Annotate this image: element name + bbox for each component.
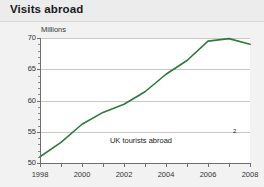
- y-axis-minor-tick-mark: [38, 126, 40, 127]
- chart-figure: Visits abroad Millions 5055606570 199820…: [0, 0, 264, 187]
- title-divider: [0, 21, 264, 22]
- y-axis-minor-tick-mark: [38, 57, 40, 58]
- x-axis-tick-mark: [40, 164, 41, 167]
- y-axis-minor-tick-mark: [38, 82, 40, 83]
- y-axis-tick-mark: [37, 101, 40, 102]
- y-axis-minor-tick-mark: [38, 151, 40, 152]
- series-annotation-label: UK tourists abroad: [110, 136, 172, 145]
- y-axis-tick-label: 70: [14, 33, 36, 42]
- x-axis-tick-mark: [103, 164, 104, 167]
- x-axis-tick-mark: [61, 164, 62, 167]
- y-axis-minor-tick-mark: [38, 94, 40, 95]
- x-axis-tick-label: 2000: [67, 170, 97, 179]
- y-axis-minor-tick-mark: [38, 63, 40, 64]
- y-axis-minor-tick-mark: [38, 51, 40, 52]
- x-axis-tick-mark: [250, 164, 251, 167]
- page-title: Visits abroad: [10, 3, 83, 15]
- series-annotation-footnote-marker: 2: [233, 128, 236, 134]
- x-axis-tick-label: 2006: [193, 170, 223, 179]
- y-axis-minor-tick-mark: [38, 44, 40, 45]
- y-axis-minor-tick-mark: [38, 107, 40, 108]
- x-axis-tick-mark: [187, 164, 188, 167]
- y-axis-tick-label: 60: [14, 96, 36, 105]
- x-axis-tick-label: 2004: [151, 170, 181, 179]
- y-axis-tick-label: 50: [14, 158, 36, 167]
- x-axis-tick-label: 2002: [109, 170, 139, 179]
- x-axis-tick-mark: [166, 164, 167, 167]
- x-axis-tick-label: 2008: [235, 170, 264, 179]
- x-axis-tick-label: 1998: [25, 170, 55, 179]
- y-axis-minor-tick-mark: [38, 157, 40, 158]
- y-axis-minor-tick-mark: [38, 76, 40, 77]
- y-axis-tick-mark: [37, 69, 40, 70]
- y-axis-tick-label: 55: [14, 127, 36, 136]
- y-axis-tick-mark: [37, 132, 40, 133]
- y-axis-minor-tick-mark: [38, 144, 40, 145]
- y-axis-minor-tick-mark: [38, 113, 40, 114]
- x-axis-tick-mark: [229, 164, 230, 167]
- y-axis-line: [40, 38, 41, 164]
- y-axis-minor-tick-mark: [38, 138, 40, 139]
- y-axis-units-label: Millions: [41, 25, 66, 34]
- x-axis-tick-mark: [124, 164, 125, 167]
- x-axis-tick-mark: [145, 164, 146, 167]
- y-axis-minor-tick-mark: [38, 119, 40, 120]
- y-axis-tick-mark: [37, 38, 40, 39]
- x-axis-tick-mark: [208, 164, 209, 167]
- y-axis-minor-tick-mark: [38, 88, 40, 89]
- y-axis-tick-label: 65: [14, 64, 36, 73]
- x-axis-tick-mark: [82, 164, 83, 167]
